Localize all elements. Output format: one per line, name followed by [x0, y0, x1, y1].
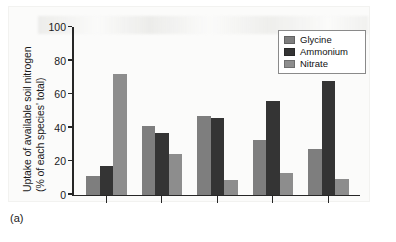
bar-glycine-group-4 — [253, 140, 267, 194]
bar-ammonium-group-2 — [155, 133, 169, 194]
legend-label-ammonium: Ammonium — [300, 47, 348, 57]
chart-legend: Glycine Ammonium Nitrate — [278, 30, 366, 74]
bar-glycine-group-3 — [197, 116, 211, 195]
y-tick-label: 100 — [48, 21, 66, 33]
y-tick-label: 60 — [54, 88, 66, 100]
y-axis-label: Uptake of available soil nitrogen (% of … — [6, 14, 40, 194]
legend-swatch-nitrate-icon — [284, 60, 295, 68]
legend-item-glycine: Glycine — [284, 34, 360, 45]
bar-glycine-group-5 — [308, 149, 322, 194]
bar-nitrate-group-2 — [169, 154, 183, 194]
y-tick-label: 20 — [54, 155, 66, 167]
y-tick-mark — [68, 93, 72, 95]
legend-item-ammonium: Ammonium — [284, 46, 360, 57]
bar-ammonium-group-1 — [100, 166, 114, 194]
legend-item-nitrate: Nitrate — [284, 58, 360, 69]
bar-nitrate-group-5 — [335, 179, 349, 194]
y-axis-line — [72, 27, 74, 196]
bar-ammonium-group-5 — [322, 81, 336, 195]
bar-ammonium-group-3 — [211, 118, 225, 194]
panel-label: (a) — [10, 212, 23, 224]
legend-swatch-ammonium-icon — [284, 48, 295, 56]
bar-nitrate-group-3 — [224, 180, 238, 194]
bar-ammonium-group-4 — [266, 101, 280, 195]
y-tick-mark — [68, 26, 72, 28]
y-tick-mark — [68, 126, 72, 128]
x-tick-4 — [272, 196, 273, 203]
y-axis-label-line-2: (% of each species' total) — [34, 78, 46, 192]
bar-glycine-group-1 — [86, 176, 100, 194]
y-tick-mark — [68, 59, 72, 61]
y-tick-label: 0 — [60, 189, 66, 201]
bar-nitrate-group-4 — [280, 173, 294, 195]
y-axis-label-line-1: Uptake of available soil nitrogen — [21, 46, 33, 192]
x-tick-2 — [161, 196, 162, 203]
legend-label-glycine: Glycine — [300, 35, 332, 45]
bar-nitrate-group-1 — [113, 74, 127, 195]
legend-label-nitrate: Nitrate — [300, 59, 328, 69]
x-tick-1 — [106, 196, 107, 203]
bar-glycine-group-2 — [142, 126, 156, 195]
figure-screenshot: Uptake of available soil nitrogen (% of … — [0, 0, 396, 242]
x-tick-3 — [217, 196, 218, 203]
y-tick-label: 80 — [54, 55, 66, 67]
y-tick-mark — [68, 193, 72, 195]
legend-swatch-glycine-icon — [284, 36, 295, 44]
x-tick-5 — [328, 196, 329, 203]
y-tick-mark — [68, 160, 72, 162]
y-tick-label: 40 — [54, 122, 66, 134]
